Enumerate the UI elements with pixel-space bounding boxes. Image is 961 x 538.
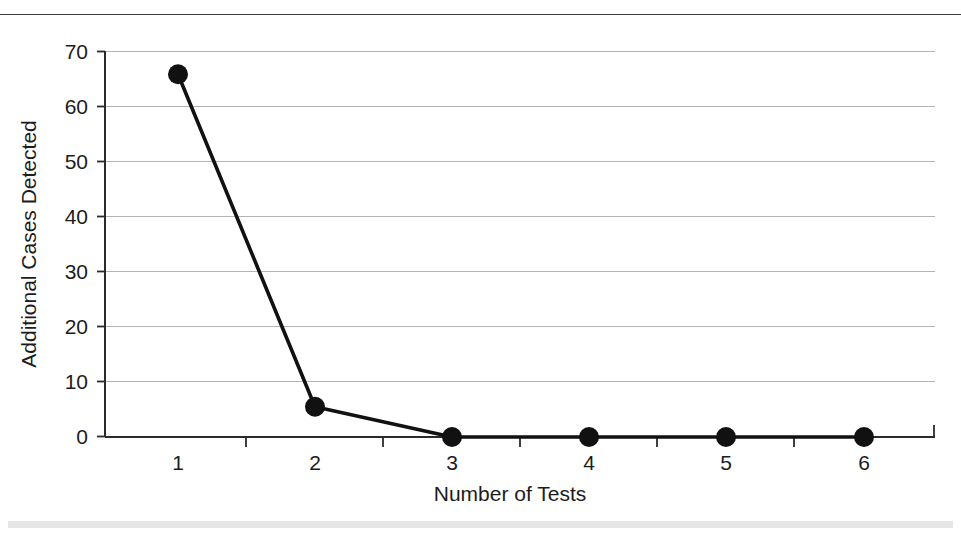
y-tick-label-40: 40 [65, 205, 88, 228]
y-tick-label-30: 30 [65, 260, 88, 283]
bottom-gray-band [8, 521, 953, 528]
data-point-3 [442, 427, 462, 447]
y-axis [97, 51, 105, 437]
series-line-path [178, 74, 864, 437]
data-point-5 [716, 427, 736, 447]
y-tick-label-0: 0 [76, 425, 88, 448]
data-point-2 [305, 397, 325, 417]
x-tick-label-1: 1 [172, 451, 184, 474]
x-axis-title: Number of Tests [434, 482, 587, 505]
data-point-6 [854, 427, 874, 447]
y-tick-label-20: 20 [65, 315, 88, 338]
x-tick-label-4: 4 [583, 451, 595, 474]
y-tick-label-60: 60 [65, 95, 88, 118]
figure-canvas: 70 60 50 40 30 20 10 0 1 2 3 4 5 6 [0, 0, 961, 538]
y-axis-title: Additional Cases Detected [17, 120, 40, 367]
x-tick-label-2: 2 [309, 451, 321, 474]
x-tick-label-6: 6 [858, 451, 870, 474]
x-tick-label-5: 5 [720, 451, 732, 474]
line-chart: 70 60 50 40 30 20 10 0 1 2 3 4 5 6 [0, 0, 961, 538]
y-tick-label-10: 10 [65, 370, 88, 393]
data-point-1 [168, 64, 188, 84]
y-tick-label-50: 50 [65, 150, 88, 173]
data-series-additional-cases-detected [168, 64, 874, 447]
y-tick-label-70: 70 [65, 40, 88, 63]
data-point-4 [579, 427, 599, 447]
x-axis-tick-labels: 1 2 3 4 5 6 [172, 451, 870, 474]
x-tick-label-3: 3 [446, 451, 458, 474]
gridlines-horizontal [105, 52, 935, 382]
y-axis-tick-labels: 70 60 50 40 30 20 10 0 [65, 40, 88, 448]
